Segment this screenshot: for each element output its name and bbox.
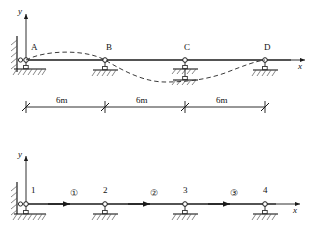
node-1-support bbox=[11, 182, 46, 220]
node-label-1: 1 bbox=[31, 186, 36, 195]
support-a-wall bbox=[11, 36, 23, 72]
support-label-a: A bbox=[31, 43, 38, 52]
element-label-3: ③ bbox=[230, 189, 238, 198]
support-label-d: D bbox=[264, 43, 271, 52]
support-label-b: B bbox=[106, 43, 112, 52]
element-label-1: ① bbox=[70, 189, 78, 198]
dimension-label-3: 6m bbox=[216, 96, 228, 105]
top-x-axis-label: x bbox=[298, 62, 302, 71]
node-label-2: 2 bbox=[103, 186, 108, 195]
element-label-2: ② bbox=[150, 189, 158, 198]
bottom-x-axis-label: x bbox=[293, 206, 297, 215]
dimension-label-2: 6m bbox=[136, 96, 148, 105]
deflection-curve bbox=[26, 52, 265, 82]
figure-canvas: y x A B C D 6m 6m 6m y x 1 2 3 4 ① ② ③ bbox=[0, 0, 314, 234]
node-label-3: 3 bbox=[183, 186, 188, 195]
bottom-y-axis-label: y bbox=[18, 150, 22, 159]
node-label-4: 4 bbox=[263, 186, 268, 195]
figure-svg bbox=[0, 0, 314, 234]
support-label-c: C bbox=[184, 43, 190, 52]
top-y-axis-label: y bbox=[18, 7, 22, 16]
dimension-label-1: 6m bbox=[56, 96, 68, 105]
